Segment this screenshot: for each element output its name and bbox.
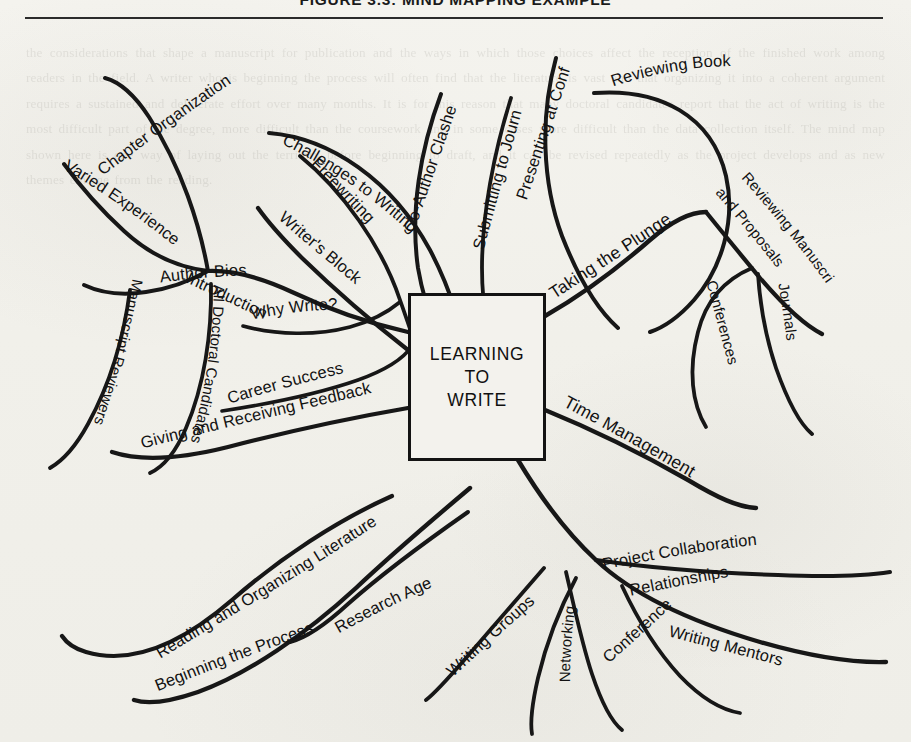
label-journals-right: Journals (775, 281, 800, 341)
label-taking-the-plunge: Taking the Plunge (546, 209, 675, 303)
central-topic-line3: WRITE (447, 389, 506, 412)
label-beginning-the-process: Beginning the Process (152, 618, 315, 694)
label-time-management: Time Management (561, 392, 699, 482)
label-chapter-organization: Chapter Organization (94, 70, 234, 178)
label-varied-experience: Varied Experience (61, 156, 183, 248)
branch-time-management (545, 410, 756, 508)
label-manuscript-reviewers: Manuscript Reviewers (91, 278, 147, 428)
label-writing-groups: Writing Groups (443, 591, 538, 679)
branch-taking-the-plunge (545, 212, 706, 316)
central-topic-line2: TO (464, 366, 489, 389)
label-why-write: Why Write? (249, 294, 338, 322)
figure-page: the considerations that shape a manuscri… (0, 0, 911, 742)
page-title: FIGURE 3.3: MIND MAPPING EXAMPLE (0, 0, 911, 9)
central-topic-box: LEARNING TO WRITE (408, 293, 546, 461)
label-conferences-bottom: Conferences (0, 0, 675, 666)
branch-writers-block (258, 208, 408, 350)
title-divider (25, 17, 883, 19)
figure-title-bar: FIGURE 3.3: MIND MAPPING EXAMPLE (0, 0, 911, 28)
central-topic-line1: LEARNING (430, 343, 524, 366)
label-project-collaboration: Project Collaboration (601, 530, 758, 573)
label-conferences-right: Conferences (703, 278, 742, 366)
label-reviewing-manuscripts-line2: and Proposals (713, 184, 788, 270)
